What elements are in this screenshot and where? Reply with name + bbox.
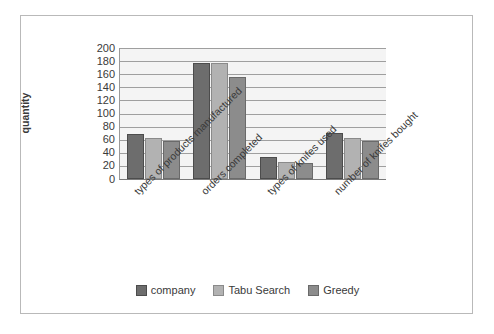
plot-area [119,48,386,180]
chart-container: quantity 200180160140120100806040200 typ… [20,15,473,314]
plot-inner [120,48,386,179]
bar-group [253,48,320,179]
bar[interactable] [362,141,379,179]
y-tick-label: 160 [69,69,115,80]
legend-swatch-icon [136,285,147,296]
y-tick-label: 100 [69,108,115,119]
y-tick-label: 40 [69,147,115,158]
chart-legend: companyTabu SearchGreedy [21,284,474,296]
bar-group [320,48,387,179]
y-axis-tick-labels: 200180160140120100806040200 [69,43,115,185]
legend-item[interactable]: company [136,284,196,296]
y-tick-label: 20 [69,160,115,171]
bar[interactable] [145,138,162,179]
bar[interactable] [260,157,277,179]
bar[interactable] [163,141,180,179]
legend-label: Greedy [323,284,359,296]
y-tick-label: 120 [69,95,115,106]
y-tick-label: 0 [69,174,115,185]
bar[interactable] [326,133,343,180]
legend-label: company [151,284,196,296]
legend-swatch-icon [308,285,319,296]
bar-group [187,48,254,179]
bar[interactable] [296,163,313,179]
y-tick-label: 200 [69,43,115,54]
y-tick-label: 140 [69,82,115,93]
legend-item[interactable]: Greedy [308,284,359,296]
legend-swatch-icon [213,285,224,296]
bar[interactable] [229,77,246,179]
y-tick-label: 180 [69,56,115,67]
legend-item[interactable]: Tabu Search [213,284,290,296]
bar[interactable] [278,162,295,179]
y-tick-label: 60 [69,134,115,145]
bar[interactable] [127,134,144,179]
bar[interactable] [211,63,228,179]
y-tick-label: 80 [69,121,115,132]
bar-group [120,48,187,179]
bar[interactable] [344,138,361,179]
y-axis-title: quantity [19,68,31,158]
legend-label: Tabu Search [228,284,290,296]
bar[interactable] [193,63,210,179]
